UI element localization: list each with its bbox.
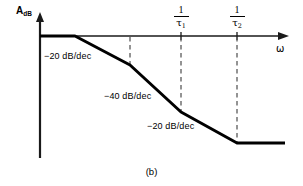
- fraction-denominator: τ2: [226, 17, 248, 30]
- x-axis-label: ω: [276, 44, 284, 54]
- fraction-denominator: τ1: [170, 17, 192, 30]
- fraction-numerator: 1: [170, 5, 192, 16]
- plot-canvas: [0, 0, 303, 186]
- tau-subscript: 2: [238, 22, 242, 30]
- tick-label-inverse-tau2: 1 τ2: [226, 5, 248, 30]
- bode-plot-figure: AdB ω 1 τ1 1 τ2 −20 dB/dec −40 dB/dec −2…: [0, 0, 303, 186]
- figure-caption: (b): [0, 166, 303, 177]
- tau-subscript: 1: [182, 22, 186, 30]
- y-axis: [36, 12, 44, 158]
- y-axis-label: AdB: [16, 6, 32, 18]
- slope-annotation-third: −20 dB/dec: [147, 122, 194, 131]
- tick-label-inverse-tau1: 1 τ1: [170, 5, 192, 30]
- slope-annotation-second: −40 dB/dec: [104, 92, 151, 101]
- y-axis-label-subscript: dB: [23, 10, 32, 17]
- fraction-numerator: 1: [226, 5, 248, 16]
- slope-annotation-first: −20 dB/dec: [44, 52, 91, 61]
